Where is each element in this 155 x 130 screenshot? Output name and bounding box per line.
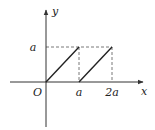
diagram-canvas: y x O a2aa bbox=[0, 0, 155, 130]
graph-segment-2 bbox=[79, 47, 112, 82]
x-axis-label: x bbox=[141, 85, 148, 98]
x-tick-label: a bbox=[76, 86, 83, 99]
x-tick-label: 2a bbox=[104, 86, 119, 99]
y-tick-label: a bbox=[30, 41, 37, 54]
origin-label: O bbox=[33, 86, 42, 99]
y-axis-label: y bbox=[51, 5, 59, 18]
graph-segment-1 bbox=[46, 47, 79, 82]
axes-group bbox=[10, 10, 143, 127]
tick-labels-group: a2aa bbox=[30, 41, 119, 99]
guides-group bbox=[46, 47, 112, 82]
